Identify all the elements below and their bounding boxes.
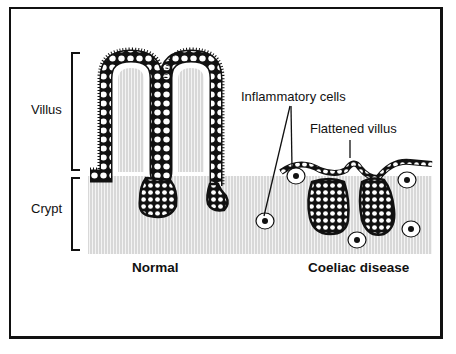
flattened-villus-label: Flattened villus: [310, 121, 397, 136]
inflammatory-cells-label: Inflammatory cells: [241, 89, 346, 104]
crypt-label: Crypt: [31, 201, 62, 216]
crypt-bracket: [72, 178, 80, 250]
villus-bracket: [72, 53, 80, 170]
coeliac-disease-caption: Coeliac disease: [308, 260, 409, 275]
normal-caption: Normal: [132, 260, 179, 275]
villus-label: Villus: [31, 102, 62, 117]
intestinal-villus-diagram: [0, 0, 456, 354]
